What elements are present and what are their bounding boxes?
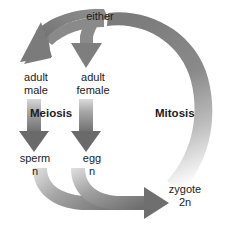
mitosis-arc-arrow [107, 12, 212, 192]
label-zygote: zygote 2n [150, 183, 220, 208]
label-either: either [72, 10, 128, 23]
label-mitosis: Mitosis [155, 107, 221, 120]
label-sperm: sperm n [4, 152, 66, 177]
life-cycle-diagram: either adult male adult female Meiosis M… [0, 0, 230, 232]
label-adult-male: adult male [8, 71, 64, 96]
label-adult-female: adult female [62, 71, 124, 96]
label-meiosis: Meiosis [30, 107, 96, 120]
label-egg: egg n [63, 152, 121, 177]
